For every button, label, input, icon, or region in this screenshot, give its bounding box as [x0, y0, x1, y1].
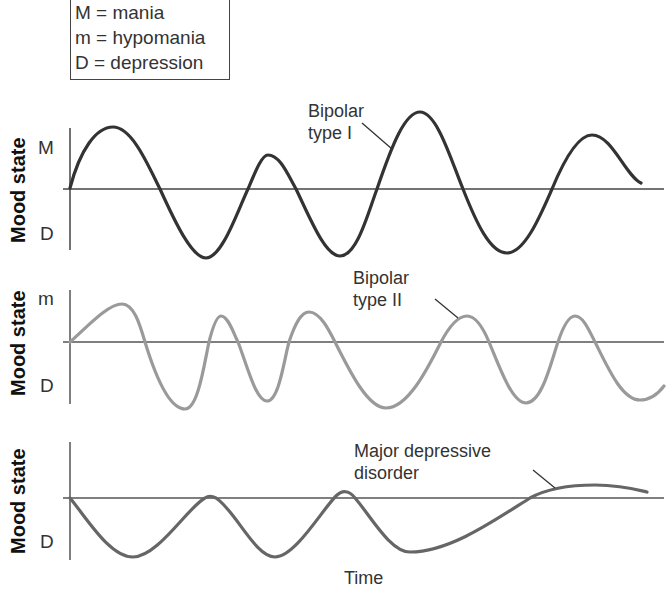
annotation-major-depressive: Major depressive disorder	[354, 440, 491, 484]
annotation-bipolar-1: Bipolar type I	[308, 100, 364, 144]
annotation-bipolar-2: Bipolar type II	[353, 267, 409, 311]
tick-hypomania: m	[38, 288, 54, 310]
tick-depression-1: D	[40, 223, 54, 245]
curve-bipolar-2	[70, 304, 664, 409]
curve-major-depressive	[70, 485, 647, 557]
leader-line-bipolar-1	[362, 123, 392, 149]
annotation-bipolar-1-line2: type I	[308, 122, 364, 144]
annotation-bipolar-1-line1: Bipolar	[308, 100, 364, 122]
mood-charts	[0, 0, 669, 591]
tick-depression-3: D	[40, 531, 54, 553]
annotation-major-depressive-line2: disorder	[354, 462, 491, 484]
annotation-bipolar-2-line2: type II	[353, 289, 409, 311]
leader-line-bipolar-2	[435, 299, 458, 318]
x-axis-label: Time	[344, 568, 383, 589]
annotation-bipolar-2-line1: Bipolar	[353, 267, 409, 289]
ylabel-major-depressive: Mood state	[7, 448, 30, 554]
leader-line-major-depressive	[533, 470, 555, 488]
ylabel-bipolar-2: Mood state	[7, 290, 30, 396]
ylabel-bipolar-1: Mood state	[7, 137, 30, 243]
tick-depression-2: D	[40, 375, 54, 397]
annotation-major-depressive-line1: Major depressive	[354, 440, 491, 462]
tick-mania: M	[38, 137, 54, 159]
